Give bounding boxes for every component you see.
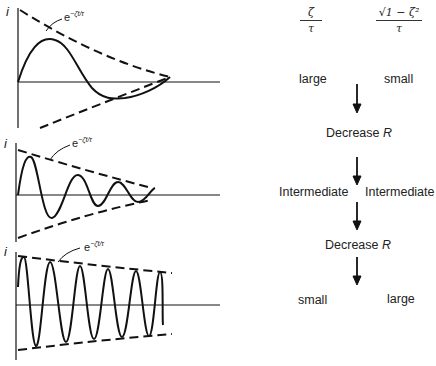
plot-1-upper-envelope	[20, 10, 170, 77]
zeta-over-tau-header: ζ τ	[300, 6, 322, 35]
row2-left-value: Intermediate	[279, 185, 348, 199]
row3-left-value: small	[298, 293, 327, 307]
plot-2-axis-label: i	[4, 136, 7, 151]
plot-3-label-pointer	[58, 248, 80, 262]
row2-right-value: Intermediate	[365, 185, 434, 199]
plot-1	[18, 8, 220, 128]
plot-2-response-curve	[18, 157, 155, 218]
plot-2-envelope-label: e−ζt/τ	[72, 136, 92, 149]
plot-3-upper-envelope	[18, 256, 172, 273]
plot-1-envelope-label: e−ζt/τ	[64, 10, 84, 23]
plot-1-response-curve	[18, 39, 170, 98]
plot-3-axis-label: i	[4, 244, 7, 259]
sqrt-term-over-tau-header: √1 − ζ² τ	[376, 6, 422, 35]
row1-left-value: large	[299, 72, 327, 86]
row3-right-value: large	[387, 292, 415, 306]
plot-2	[16, 143, 220, 242]
row1-right-value: small	[384, 72, 413, 86]
action-decrease-r-1: Decrease R	[326, 126, 392, 140]
action-decrease-r-2: Decrease R	[325, 238, 391, 252]
plot-2-label-pointer	[50, 145, 70, 160]
flow-arrows	[353, 84, 361, 285]
plot-3-envelope-label: e−ζt/τ	[84, 240, 104, 253]
plot-1-label-pointer	[46, 19, 62, 31]
plot-3-response-curve	[18, 257, 163, 346]
plot-3	[16, 248, 220, 360]
plot-1-lower-envelope	[40, 77, 170, 128]
plot-1-axis-label: i	[6, 4, 9, 19]
damped-oscillation-plots	[0, 0, 436, 366]
plot-2-lower-envelope	[18, 200, 152, 238]
